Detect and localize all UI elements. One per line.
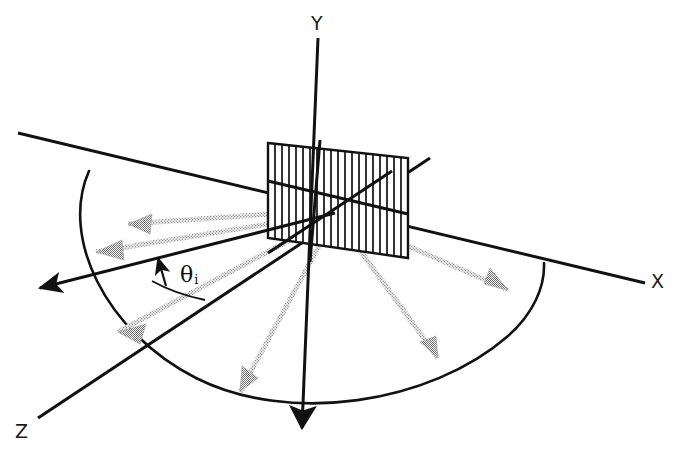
angle-of-incidence-label: θi	[180, 262, 198, 287]
diffraction-diagram	[0, 0, 682, 458]
x-axis-label: X	[651, 270, 665, 292]
plane-grating	[268, 140, 408, 262]
theta-symbol: θ	[180, 262, 193, 287]
z-axis-label: Z	[15, 420, 29, 442]
theta-subscript: i	[193, 272, 198, 287]
y-axis-label: Y	[311, 12, 323, 34]
figure-canvas: Y X Z θi	[0, 0, 682, 458]
